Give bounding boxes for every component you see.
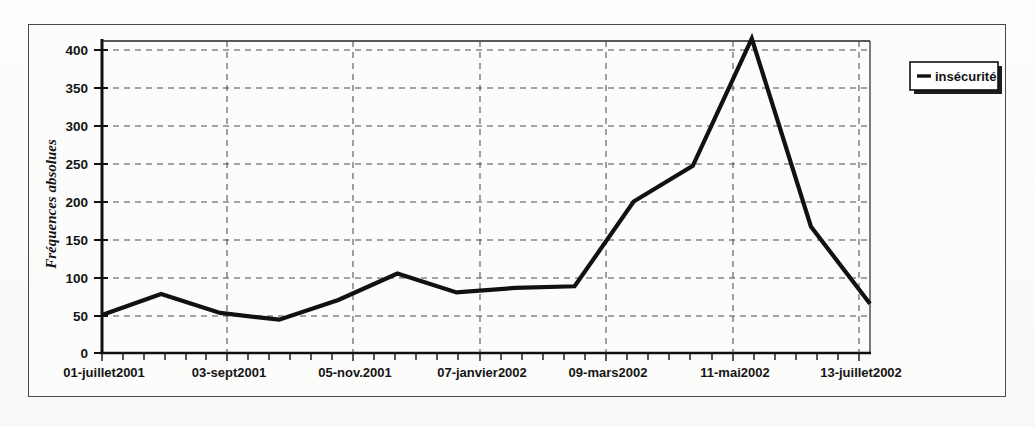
x-tick-label: 03-sept2001 [192,365,266,380]
line-chart: 400 350 300 250 200 150 100 50 0 Fréquen… [28,24,1006,397]
x-tick-label: 07-janvier2002 [437,365,527,380]
x-tick-labels: 01-juillet2001 03-sept2001 05-nov.2001 0… [63,365,902,380]
x-tick-label: 09-mars2002 [569,365,648,380]
x-tick-marks [102,353,859,361]
y-tick-label: 200 [65,195,88,210]
x-tick-label: 05-nov.2001 [318,365,391,380]
legend-label: insécurité [935,69,996,84]
y-tick-label: 150 [65,233,88,248]
legend: insécurité [910,62,1002,94]
y-tick-label: 100 [65,271,88,286]
x-tick-label: 11-mai2002 [700,365,769,380]
y-tick-label: 300 [65,119,88,134]
y-tick-label: 400 [65,43,88,58]
y-tick-label: 50 [73,309,88,324]
x-tick-label: 13-juillet2002 [820,365,902,380]
x-tick-label: 01-juillet2001 [63,365,145,380]
y-axis-label: Fréquences absolues [43,139,59,270]
y-tick-labels: 400 350 300 250 200 150 100 50 0 [65,43,88,361]
y-tick-label: 250 [65,157,88,172]
y-tick-label: 350 [65,81,88,96]
y-tick-label: 0 [80,346,88,361]
